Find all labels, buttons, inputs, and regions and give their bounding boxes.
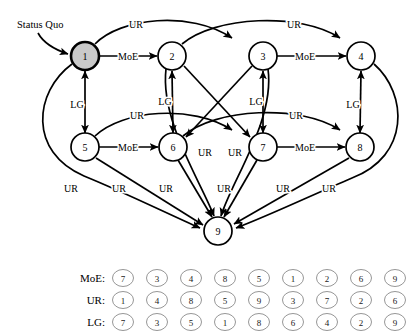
node-7-label: 7 (261, 142, 266, 153)
legend-item-value: 2 (325, 274, 330, 284)
node-5-label: 5 (83, 142, 88, 153)
legend-item-value: 4 (325, 318, 330, 328)
legend-row-label: LG: (87, 316, 105, 328)
edge-statusquo-to-1 (38, 33, 68, 54)
label-ur-5-9: UR (112, 183, 126, 194)
label-moe-3-4: MoE (295, 51, 315, 62)
label-ur-8-9: UR (276, 183, 290, 194)
legend-row-label: UR: (87, 294, 105, 306)
edge-label-layer: MoE MoE MoE MoE MoE MoE MoE MoE UR UR UR… (64, 19, 360, 194)
edge-4-8-lg (360, 71, 361, 133)
node-layer: 1 2 3 4 5 6 7 (71, 42, 375, 245)
legend-item-value: 1 (223, 318, 228, 328)
legend-item-value: 3 (155, 274, 160, 284)
legend-item-value: 6 (291, 318, 296, 328)
label-ur-6-8: UR (289, 110, 303, 121)
legend-item-value: 1 (291, 274, 296, 284)
label-ur-2-4: UR (287, 19, 301, 30)
legend-item-value: 9 (257, 296, 262, 306)
node-6-label: 6 (171, 142, 176, 153)
label-moe-5-6: MoE (118, 142, 138, 153)
label-lg-1-5: LG (70, 99, 83, 110)
legend-item-value: 5 (223, 296, 228, 306)
label-ur-2-9: UR (198, 147, 212, 158)
legend-item-value: 8 (189, 296, 194, 306)
legend-item-value: 1 (121, 296, 126, 306)
legend-item-value: 3 (155, 318, 160, 328)
legend-item-value: 8 (223, 274, 228, 284)
node-8[interactable]: 8 (346, 133, 374, 161)
label-ur-7-9: UR (217, 183, 231, 194)
node-9[interactable]: 9 (204, 217, 232, 245)
status-quo-annotation: Status Quo (17, 19, 63, 30)
node-1-label: 1 (83, 51, 88, 62)
node-9-label: 9 (216, 226, 221, 237)
label-moe-1-2: MoE (118, 51, 138, 62)
legend-row-ur: UR:148593726 (87, 292, 406, 309)
node-2-label: 2 (170, 51, 175, 62)
node-6[interactable]: 6 (159, 133, 187, 161)
legend-item-value: 4 (155, 296, 160, 306)
label-ur-3-9: UR (228, 147, 242, 158)
label-lg-3-7: LG (249, 96, 262, 107)
edge-1-3-ur (95, 20, 232, 44)
legend-item-value: 2 (359, 296, 364, 306)
status-quo-label: Status Quo (17, 19, 63, 30)
legend-item-value: 5 (257, 274, 262, 284)
legend-row-moe: MoE:734851269 (80, 270, 406, 287)
edge-5-7-ur (95, 113, 232, 136)
node-4[interactable]: 4 (347, 42, 375, 70)
legend-item-value: 7 (121, 318, 126, 328)
legend-item-value: 7 (121, 274, 126, 284)
legend-row-label: MoE: (80, 272, 105, 284)
node-8-label: 8 (358, 142, 363, 153)
legend-item-value: 7 (325, 296, 330, 306)
node-2[interactable]: 2 (158, 42, 186, 70)
legend-item-value: 4 (189, 274, 194, 284)
legend: MoE:734851269UR:148593726LG:735186429 (80, 270, 406, 331)
label-moe-7-8: MoE (295, 142, 315, 153)
label-ur-4-9: UR (322, 183, 336, 194)
node-3[interactable]: 3 (249, 42, 277, 70)
label-ur-5-7: UR (130, 110, 144, 121)
label-ur-1-9: UR (64, 183, 78, 194)
edge-3-6-cross (186, 66, 252, 137)
node-5[interactable]: 5 (71, 133, 99, 161)
label-ur-1-3: UR (129, 19, 143, 30)
legend-item-value: 2 (359, 318, 364, 328)
legend-item-value: 6 (359, 274, 364, 284)
node-4-label: 4 (359, 51, 364, 62)
graph-svg: MoE MoE MoE MoE MoE MoE MoE MoE UR UR UR… (0, 0, 417, 331)
edge-2-4-ur (182, 21, 340, 44)
node-1[interactable]: 1 (71, 42, 99, 70)
legend-item-value: 5 (189, 318, 194, 328)
legend-item-value: 8 (257, 318, 262, 328)
legend-row-lg: LG:735186429 (87, 314, 405, 331)
legend-item-value: 9 (393, 274, 398, 284)
legend-item-value: 9 (393, 318, 398, 328)
legend-item-value: 3 (291, 296, 296, 306)
legend-item-value: 6 (393, 296, 398, 306)
label-lg-2-6: LG (158, 96, 171, 107)
label-lg-4-8: LG (346, 99, 359, 110)
edge-2-7-cross (184, 66, 250, 137)
node-3-label: 3 (261, 51, 266, 62)
label-ur-6-9: UR (159, 183, 173, 194)
edge-6-9-ur (178, 160, 212, 217)
diagram-canvas: MoE MoE MoE MoE MoE MoE MoE MoE UR UR UR… (0, 0, 417, 331)
node-7[interactable]: 7 (249, 133, 277, 161)
